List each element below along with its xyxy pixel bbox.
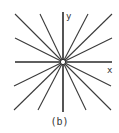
radial-lines-diagram: x y — [0, 0, 119, 133]
y-axis-label: y — [66, 11, 72, 21]
origin-circle — [60, 59, 65, 64]
figure-caption: (b) — [0, 116, 119, 127]
x-axis-label: x — [107, 65, 113, 75]
